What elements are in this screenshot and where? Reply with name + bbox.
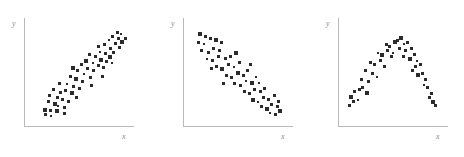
x-axis-line [338,126,448,127]
scatter-point [383,65,386,68]
scatter-point [423,84,425,86]
plot-area-curvilinear: y x [314,0,464,157]
scatter-point [217,55,220,58]
scatter-point [361,86,364,89]
scatter-point [203,43,205,45]
scatter-point [411,69,414,72]
scatter-point [428,96,431,99]
scatter-panel-negative: y x [159,0,314,157]
scatter-point [210,67,213,70]
scatter-point [434,104,437,107]
scatterplot-figure: y x y x y x [0,0,464,157]
scatter-point [220,41,223,44]
y-axis-label: y [326,20,330,28]
y-axis-label: y [171,20,175,28]
scatter-point [102,66,105,69]
scatter-point [92,62,94,64]
x-axis-label: x [281,133,285,141]
scatter-point [236,71,240,75]
scatter-point [390,55,393,58]
scatter-point [259,90,262,93]
scatter-point [105,60,108,63]
scatter-point [83,73,85,75]
scatter-point [385,43,388,46]
scatter-point [116,31,119,34]
scatter-point [255,76,257,78]
scatter-point [246,69,249,72]
scatter-point [47,100,50,103]
scatter-point [97,45,100,48]
scatter-point [112,51,115,54]
scatter-point [274,113,277,116]
scatter-point [278,109,282,113]
scatter-point [63,106,66,109]
scatter-point [392,52,394,54]
scatter-point [360,78,363,81]
scatter-point [238,61,241,64]
scatter-point [414,65,417,68]
scatter-point [124,37,127,40]
x-axis-label: x [122,133,126,141]
scatter-point [367,80,370,83]
scatter-point [104,52,107,55]
scatter-point [99,51,101,53]
scatter-point [253,88,256,91]
scatter-point [209,37,212,40]
scatter-point [94,55,97,58]
scatter-point [66,83,68,85]
scatter-point [50,115,52,117]
scatter-point [377,52,379,54]
scatter-point [80,63,83,66]
scatter-point [229,55,232,58]
scatter-point [220,67,224,71]
scatter-point [352,100,355,103]
scatter-point [249,63,252,66]
scatter-point [63,112,66,115]
scatter-point [109,47,112,50]
scatter-point [76,69,79,72]
scatter-point [410,47,413,50]
y-axis-line [338,18,339,126]
scatter-point [416,73,420,77]
scatter-point [120,40,124,44]
scatter-point [81,80,84,83]
scatter-point [348,104,351,107]
scatter-point [402,55,405,58]
scatter-point [211,59,214,62]
scatter-point [245,80,247,82]
scatter-point [89,76,92,79]
scatter-point [64,89,67,92]
scatter-point [97,64,100,67]
scatter-point [99,58,103,62]
scatter-point [243,90,246,93]
scatter-point [398,47,401,50]
scatter-point [67,100,70,103]
scatter-point [44,113,47,116]
scatter-point [111,62,113,64]
scatter-point [101,75,104,78]
scatter-point [234,51,238,55]
scatter-point [421,72,424,75]
plot-area-positive: y x [0,0,155,157]
scatter-point [58,82,61,85]
scatter-point [108,55,112,59]
scatter-point [225,74,228,77]
scatter-point [263,87,266,90]
scatter-point [114,42,117,45]
scatter-point [212,47,215,50]
scatter-point [200,49,203,52]
scatter-point [52,88,55,91]
scatter-point [357,99,359,101]
scatter-point [369,61,372,64]
scatter-point [88,53,91,56]
x-axis-line [183,126,293,127]
scatter-point [380,53,384,57]
y-axis-line [183,18,184,126]
scatter-point [386,49,389,52]
scatter-point [406,41,409,44]
y-axis-label: y [12,20,16,28]
scatter-point [69,75,72,78]
scatter-point [250,81,254,85]
scatter-point [90,84,93,87]
scatter-point [84,59,88,63]
